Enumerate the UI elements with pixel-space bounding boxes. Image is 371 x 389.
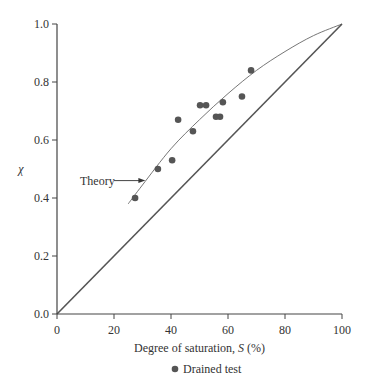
theory-curve: [128, 24, 342, 204]
x-tick-label: 20: [108, 323, 120, 337]
data-point: [203, 102, 210, 109]
y-tick-label: 0.8: [34, 75, 49, 89]
annotations: Theory: [80, 174, 145, 188]
data-point: [220, 99, 227, 106]
y-tick-label: 1.0: [34, 17, 49, 31]
x-tick-label: 40: [165, 323, 177, 337]
x-tick-label: 80: [279, 323, 291, 337]
y-tick-label: 0.4: [34, 191, 49, 205]
legend-marker-icon: [172, 366, 179, 373]
data-point: [132, 195, 139, 202]
data-point: [190, 128, 197, 135]
data-point: [169, 157, 176, 164]
data-point: [239, 93, 246, 100]
plot-area: [57, 24, 342, 314]
data-point: [155, 166, 162, 173]
chart: 0.00.20.40.60.81.0020406080100Degree of …: [0, 0, 371, 389]
y-tick-label: 0.6: [34, 133, 49, 147]
x-tick-label: 0: [54, 323, 60, 337]
x-tick-label: 60: [222, 323, 234, 337]
legend: Drained test: [172, 362, 242, 376]
y-tick-label: 0.0: [34, 307, 49, 321]
reference-line: [57, 24, 342, 314]
data-point: [197, 102, 204, 109]
data-point: [248, 67, 255, 74]
legend-label: Drained test: [183, 362, 242, 376]
data-point: [217, 114, 224, 121]
x-axis-label: Degree of saturation, S (%): [134, 341, 265, 355]
x-tick-label: 100: [333, 323, 351, 337]
data-point: [175, 116, 182, 123]
y-axis-label: χ: [17, 162, 24, 176]
theory-annotation-label: Theory: [80, 174, 115, 188]
y-tick-label: 0.2: [34, 249, 49, 263]
